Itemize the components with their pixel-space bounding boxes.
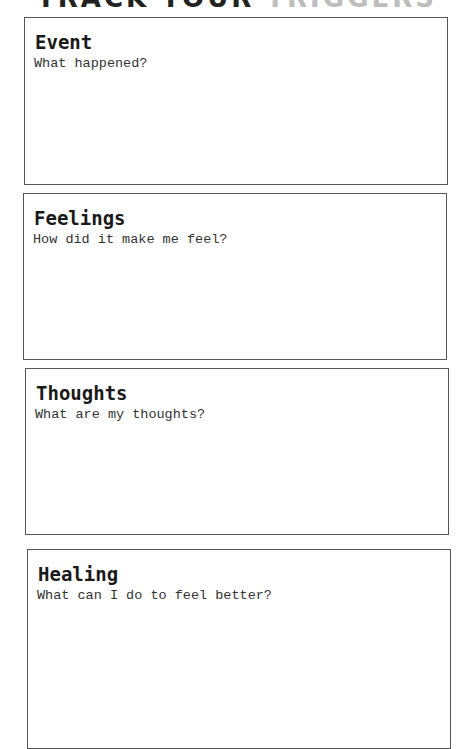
event-section[interactable]: Event What happened?: [24, 17, 448, 185]
thoughts-heading: Thoughts: [36, 382, 128, 404]
feelings-section[interactable]: Feelings How did it make me feel?: [23, 193, 447, 360]
feelings-prompt: How did it make me feel?: [33, 232, 227, 248]
thoughts-prompt: What are my thoughts?: [35, 407, 205, 423]
healing-heading: Healing: [38, 563, 118, 585]
event-prompt: What happened?: [34, 56, 147, 72]
event-heading: Event: [35, 31, 92, 53]
healing-section[interactable]: Healing What can I do to feel better?: [27, 549, 451, 749]
page-title: TRACK YOUR TRIGGERS: [0, 0, 474, 11]
thoughts-section[interactable]: Thoughts What are my thoughts?: [25, 368, 449, 535]
page-title-faded: TRIGGERS: [266, 0, 437, 13]
feelings-heading: Feelings: [34, 207, 126, 229]
healing-prompt: What can I do to feel better?: [37, 588, 272, 604]
page-title-main: TRACK YOUR: [37, 0, 266, 13]
